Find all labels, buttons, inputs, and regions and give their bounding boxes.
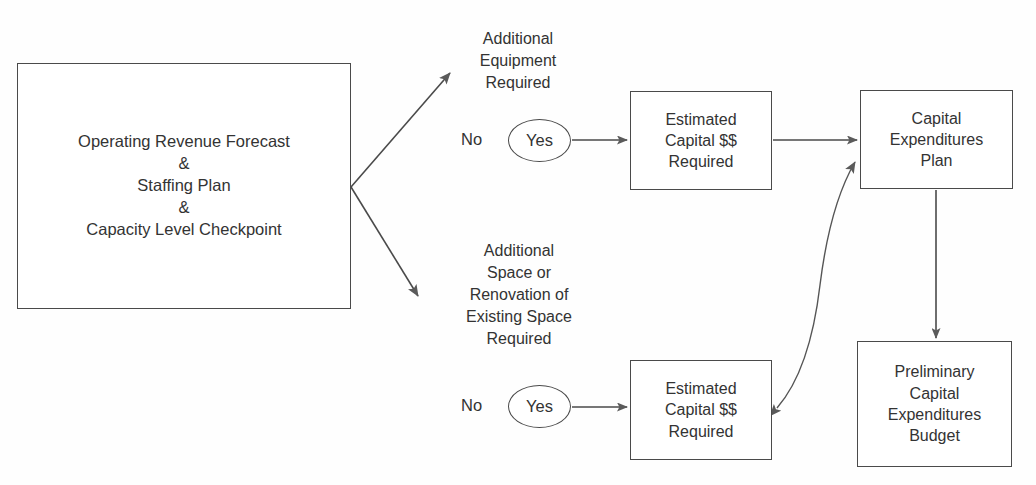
node-estimated-capital-space: Estimated Capital $$ Required bbox=[630, 360, 772, 460]
decision-no-equipment: No bbox=[461, 130, 482, 149]
node-operating-inputs-label: Operating Revenue Forecast & Staffing Pl… bbox=[18, 131, 350, 241]
decision-no-space: No bbox=[461, 396, 482, 415]
edge-main-to-equipment bbox=[351, 73, 450, 187]
decision-yes-equipment-label: Yes bbox=[526, 131, 553, 150]
branch-label-equipment: Additional Equipment Required bbox=[448, 28, 588, 94]
edge-estimated-lower-plan-bidirectional bbox=[777, 162, 855, 408]
branch-label-space: Additional Space or Renovation of Existi… bbox=[437, 240, 601, 350]
decision-yes-space-label: Yes bbox=[526, 397, 553, 416]
node-estimated-capital-space-label: Estimated Capital $$ Required bbox=[631, 378, 771, 442]
node-capital-expenditures-plan-label: Capital Expenditures Plan bbox=[861, 108, 1012, 172]
node-preliminary-capital-budget: Preliminary Capital Expenditures Budget bbox=[857, 341, 1012, 467]
node-operating-inputs: Operating Revenue Forecast & Staffing Pl… bbox=[17, 63, 351, 309]
node-preliminary-capital-budget-label: Preliminary Capital Expenditures Budget bbox=[858, 361, 1011, 446]
flowchart-canvas: Operating Revenue Forecast & Staffing Pl… bbox=[0, 0, 1036, 485]
decision-yes-equipment: Yes bbox=[508, 119, 571, 162]
decision-yes-space: Yes bbox=[508, 385, 571, 428]
node-estimated-capital-equipment: Estimated Capital $$ Required bbox=[630, 91, 772, 190]
node-capital-expenditures-plan: Capital Expenditures Plan bbox=[860, 90, 1013, 189]
node-estimated-capital-equipment-label: Estimated Capital $$ Required bbox=[631, 109, 771, 173]
edge-main-to-space bbox=[351, 187, 418, 296]
